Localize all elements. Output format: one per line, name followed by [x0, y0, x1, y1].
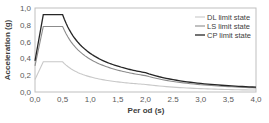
- legend-label: DL limit state: [207, 13, 250, 22]
- x-tick-label: 0,0: [29, 95, 41, 104]
- x-tick-label: 0,5: [57, 95, 69, 104]
- y-axis-title: Acceleration (g): [3, 19, 12, 80]
- y-tick-label: 1,0: [20, 4, 32, 13]
- x-tick-labels: 0,00,51,01,52,02.53,03,54,0: [29, 95, 262, 104]
- response-spectrum-chart: 0,00,51,01,52,02.53,03,54,0 0,00,20,40,6…: [0, 0, 269, 123]
- x-tick-label: 2,0: [140, 95, 152, 104]
- y-tick-labels: 0,00,20,40,60,81,0: [20, 4, 32, 97]
- legend: DL limit stateLS limit stateCP limit sta…: [195, 13, 251, 40]
- x-axis-title: Per od (s): [128, 106, 165, 115]
- x-tick-label: 1,5: [112, 95, 124, 104]
- x-tick-label: 3,0: [195, 95, 207, 104]
- legend-label: CP limit state: [207, 31, 251, 40]
- x-tick-label: 2.5: [168, 95, 180, 104]
- y-tick-label: 0,6: [20, 38, 32, 47]
- y-tick-label: 0,4: [20, 54, 32, 63]
- legend-label: LS limit state: [207, 22, 250, 31]
- y-tick-label: 0,8: [20, 21, 32, 30]
- y-tick-label: 0,2: [20, 71, 32, 80]
- x-tick-label: 4,0: [250, 95, 262, 104]
- y-tick-label: 0,0: [20, 88, 32, 97]
- x-tick-label: 3,5: [223, 95, 235, 104]
- x-tick-label: 1,0: [85, 95, 97, 104]
